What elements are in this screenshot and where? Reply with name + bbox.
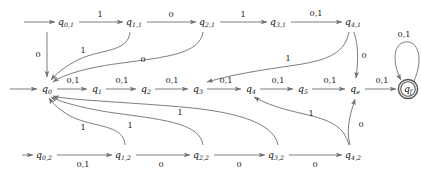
node-q11[interactable]: q1,1: [126, 16, 142, 29]
node-q31[interactable]: q3,1: [270, 16, 286, 29]
edge-label-q31-q4: 1: [285, 53, 290, 63]
edge-q11-q0: [51, 32, 130, 80]
edge-label-qe-qf: 0,1: [375, 75, 388, 85]
node-q1[interactable]: q1: [92, 83, 102, 96]
edge-qf-self-loop: [395, 42, 419, 81]
edge-label-q12-q0: 1: [80, 122, 85, 132]
node-q42[interactable]: q4,2: [345, 149, 361, 162]
edge-label-q41-qe: 0: [361, 50, 366, 60]
edge-q42-qe: [348, 99, 355, 145]
edge-label-q2-q3: 0,1: [165, 75, 178, 85]
automaton-diagram: q0,1 q1,1 q2,1 q3,1 q4,1 q0 q1 q2 q3 q4 …: [0, 0, 421, 175]
edge-label-q22-q32: 0: [236, 159, 241, 169]
node-q0[interactable]: q0: [42, 83, 52, 96]
node-q01[interactable]: q0,1: [58, 16, 74, 29]
node-q2[interactable]: q2: [141, 83, 151, 96]
node-q5[interactable]: q5: [298, 83, 308, 96]
node-q22[interactable]: q2,2: [193, 149, 209, 162]
edge-q12-q0: [49, 98, 125, 145]
node-qe[interactable]: qe: [350, 83, 360, 96]
node-qf-accept[interactable]: qf: [404, 83, 412, 96]
edge-label-q22-q0: 1: [127, 120, 132, 130]
node-q3[interactable]: q3: [193, 83, 203, 96]
edge-label-q5-qe: 0,1: [323, 75, 336, 85]
edge-label-q42-qe: 0: [358, 119, 363, 129]
edge-label-q02-q12: 0,1: [76, 159, 89, 169]
edge-label-q21-q0: 0: [140, 54, 145, 64]
edge-q32-q4: [254, 97, 349, 145]
edge-label-q32-q0: 1: [177, 107, 182, 117]
node-q02[interactable]: q0,2: [36, 149, 52, 162]
node-q12[interactable]: q1,2: [115, 149, 131, 162]
node-q4[interactable]: q4: [246, 83, 256, 96]
edge-label-q1-q2: 0,1: [115, 75, 128, 85]
edge-label-q12-q22: 0: [158, 159, 163, 169]
edge-label-q3-q4: 0,1: [219, 75, 232, 85]
edge-label-q01-q0: 0: [35, 49, 40, 59]
edge-label-qf-self-loop: 0,1: [397, 29, 410, 39]
edge-label-q21-q31: 1: [240, 9, 245, 19]
node-q21[interactable]: q2,1: [199, 16, 215, 29]
node-q32[interactable]: q3,2: [268, 149, 284, 162]
node-q41[interactable]: q4,1: [345, 16, 361, 29]
edge-q41-qe: [354, 32, 358, 78]
edge-label-q11-q0: 1: [80, 45, 85, 55]
edge-label-q0-q1: 0,1: [66, 75, 79, 85]
edge-label-q31-q41: 0,1: [309, 8, 322, 18]
edge-label-q32-q4: 1: [308, 108, 313, 118]
edge-label-q11-q21: 0: [168, 9, 173, 19]
edge-label-q32-q42: 0: [312, 159, 317, 169]
edge-label-q4-q5: 0,1: [271, 75, 284, 85]
edge-label-q01-q11: 1: [97, 9, 102, 19]
